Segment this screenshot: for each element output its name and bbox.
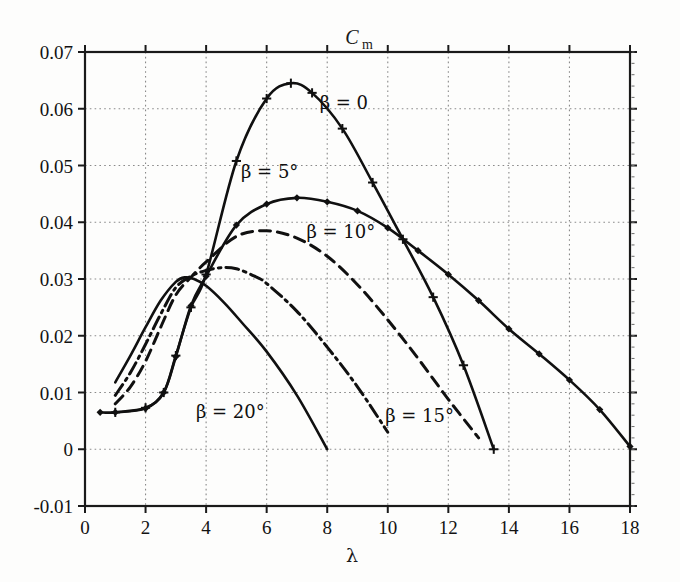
y-tick-label: 0.01 [40, 383, 73, 404]
label-beta-15: β = 15° [385, 405, 454, 426]
x-tick-label: 0 [80, 517, 90, 538]
label-beta-10: β = 10° [306, 221, 375, 242]
chart-title: C [345, 26, 359, 48]
x-tick-label: 4 [201, 517, 211, 538]
chart-background [0, 0, 680, 582]
y-tick-label: 0.03 [40, 269, 73, 290]
x-tick-label: 16 [560, 517, 579, 538]
x-tick-label: 6 [262, 517, 272, 538]
label-beta-20: β = 20° [196, 401, 265, 422]
x-tick-label: 8 [322, 517, 332, 538]
x-tick-label: 10 [378, 517, 397, 538]
x-tick-label: 14 [499, 517, 519, 538]
y-tick-label: 0.02 [40, 326, 73, 347]
y-tick-label: 0.07 [40, 42, 73, 63]
chart-page: -0.0100.010.020.030.040.050.060.07024681… [0, 0, 680, 582]
label-beta-5: β = 5° [241, 161, 298, 182]
x-tick-label: 12 [439, 517, 458, 538]
chart-title-subscript: m [362, 37, 373, 52]
x-tick-label: 18 [621, 517, 640, 538]
x-tick-label: 2 [141, 517, 151, 538]
y-tick-label: 0 [64, 439, 74, 460]
label-beta-0: β = 0 [320, 92, 368, 113]
cm-vs-lambda-chart: -0.0100.010.020.030.040.050.060.07024681… [0, 0, 680, 582]
y-tick-label: 0.04 [40, 212, 74, 233]
y-tick-label: 0.05 [40, 156, 73, 177]
x-axis-label: λ [346, 544, 358, 566]
right-edge-minor-ticks [632, 52, 635, 506]
y-tick-label: -0.01 [33, 496, 73, 517]
y-tick-label: 0.06 [40, 99, 73, 120]
